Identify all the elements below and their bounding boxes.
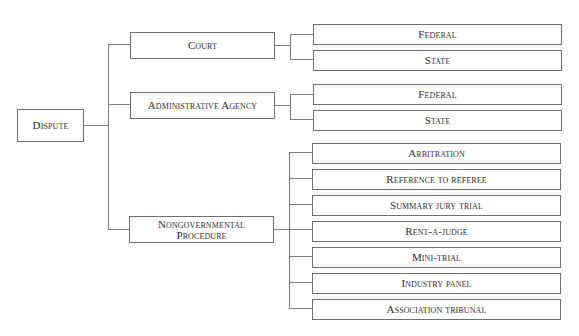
connector-root <box>84 125 108 126</box>
node-summary-jury-trial: Summary jury trial <box>312 195 561 216</box>
connector-admin-federal <box>290 94 313 95</box>
trunk-root <box>108 44 109 230</box>
node-court-state: State <box>313 50 562 71</box>
node-court-federal: Federal <box>313 24 562 45</box>
connector-court-federal <box>290 34 313 35</box>
node-court: Court <box>130 32 275 59</box>
node-label: Rent-a-judge <box>405 226 468 237</box>
bracket-court <box>290 34 291 59</box>
bracket-nongov <box>289 152 290 309</box>
connector-admin <box>108 104 130 105</box>
connector-nongov <box>108 229 129 230</box>
node-label: Federal <box>418 29 456 40</box>
node-label: Arbitration <box>408 148 465 159</box>
node-association-tribunal: Association tribunal <box>312 299 561 320</box>
connector-court-out <box>275 45 290 46</box>
connector-court-state <box>290 59 313 60</box>
connector-nongov-out <box>274 229 312 230</box>
node-label-line-2: Procedure <box>176 230 226 241</box>
node-label: Dispute <box>33 120 69 131</box>
node-reference-to-referee: Reference to referee <box>312 169 561 190</box>
node-dispute: Dispute <box>17 109 84 142</box>
node-arbitration: Arbitration <box>312 143 561 164</box>
connector-admin-state <box>290 119 313 120</box>
connector-arbitration <box>289 152 312 153</box>
node-admin-state: State <box>313 110 562 131</box>
connector-industry <box>289 282 312 283</box>
connector-reference <box>289 178 312 179</box>
node-label: Summary jury trial <box>390 200 483 211</box>
connector-summary <box>289 204 312 205</box>
node-label: State <box>425 55 451 66</box>
node-label: Mini-trial <box>412 252 461 263</box>
node-label: Reference to referee <box>386 174 486 185</box>
node-rent-a-judge: Rent-a-judge <box>312 221 561 242</box>
connector-mini <box>289 256 312 257</box>
node-nongovernmental-procedure: Nongovernmental Procedure <box>129 216 274 243</box>
node-label: Court <box>188 40 217 51</box>
connector-association <box>289 308 312 309</box>
node-label-line-1: Nongovernmental <box>158 219 245 230</box>
node-administrative-agency: Administrative Agency <box>130 92 275 119</box>
connector-court <box>108 44 130 45</box>
node-industry-panel: Industry panel <box>312 273 561 294</box>
node-label: Industry panel <box>401 278 471 289</box>
node-label: Association tribunal <box>387 304 487 315</box>
node-mini-trial: Mini-trial <box>312 247 561 268</box>
node-admin-federal: Federal <box>313 84 562 105</box>
node-label: State <box>425 115 451 126</box>
node-label: Administrative Agency <box>148 100 257 111</box>
connector-admin-out <box>275 105 290 106</box>
bracket-admin <box>290 94 291 119</box>
node-label: Federal <box>418 89 456 100</box>
